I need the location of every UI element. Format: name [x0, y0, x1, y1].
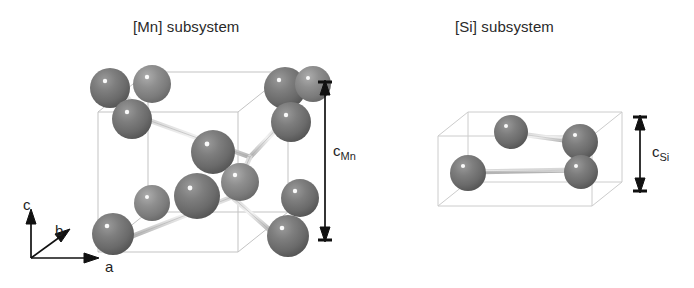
- dimension-label-cmn: cMn: [333, 142, 356, 162]
- dimension-label-cmn-sub: Mn: [341, 150, 356, 162]
- dimension-arrow-cmn: [318, 80, 332, 242]
- si-atom-group: [450, 115, 598, 191]
- figure-canvas: [Mn] subsystem [Si] subsystem: [0, 0, 694, 288]
- dimension-label-csi: cSi: [652, 143, 669, 163]
- dimension-label-csi-sub: Si: [660, 151, 670, 163]
- dimension-arrow-csi: [633, 115, 647, 193]
- axis-label-b: b: [55, 222, 63, 239]
- axis-label-a: a: [105, 258, 113, 275]
- dimension-label-cmn-base: c: [333, 142, 341, 159]
- dimension-label-csi-base: c: [652, 143, 660, 160]
- mn-atom-group: [90, 65, 331, 257]
- axis-label-c: c: [23, 196, 31, 213]
